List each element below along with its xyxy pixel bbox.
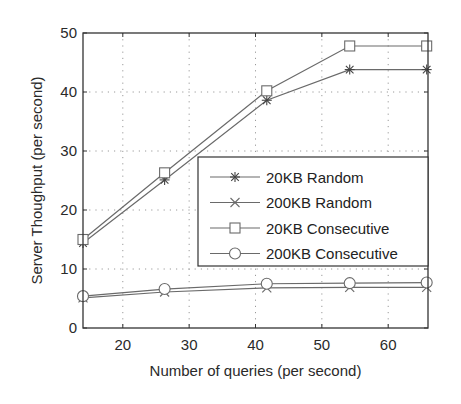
legend-label: 200KB Consecutive [266, 245, 398, 262]
x-tick-label: 60 [380, 336, 397, 353]
asterisk-marker-icon [230, 172, 240, 182]
square-marker-icon [345, 41, 355, 51]
asterisk-marker-icon [422, 65, 432, 75]
y-tick-label: 40 [60, 83, 77, 100]
series-200kb-random [79, 283, 432, 303]
circle-marker-icon [159, 284, 170, 295]
asterisk-marker-icon [345, 65, 355, 75]
x-axis-label: Number of queries (per second) [150, 362, 362, 379]
x-tick-label: 30 [181, 336, 198, 353]
circle-marker-icon [421, 277, 432, 288]
square-marker-icon [160, 168, 170, 178]
y-tick-label: 30 [60, 142, 77, 159]
legend-label: 20KB Random [266, 169, 364, 186]
series-200kb-consecutive [78, 277, 433, 302]
y-axis-label: Server Thoughput (per second) [28, 76, 45, 284]
square-marker-icon [230, 223, 240, 233]
x-tick-label: 40 [247, 336, 264, 353]
x-tick-label: 50 [314, 336, 331, 353]
square-marker-icon [262, 86, 272, 96]
square-marker-icon [422, 41, 432, 51]
y-tick-label: 10 [60, 260, 77, 277]
legend: 20KB Random200KB Random20KB Consecutive2… [198, 157, 428, 266]
circle-marker-icon [261, 278, 272, 289]
asterisk-marker-icon [262, 95, 272, 105]
legend-label: 20KB Consecutive [266, 220, 389, 237]
legend-label: 200KB Random [266, 194, 372, 211]
y-tick-label: 0 [69, 319, 77, 336]
line-chart: 01020304050 2030405060 Number of queries… [0, 0, 461, 404]
y-tick-label: 50 [60, 24, 77, 41]
y-tick-label: 20 [60, 201, 77, 218]
circle-marker-icon [230, 248, 241, 259]
x-tick-label: 20 [114, 336, 131, 353]
circle-marker-icon [344, 278, 355, 289]
